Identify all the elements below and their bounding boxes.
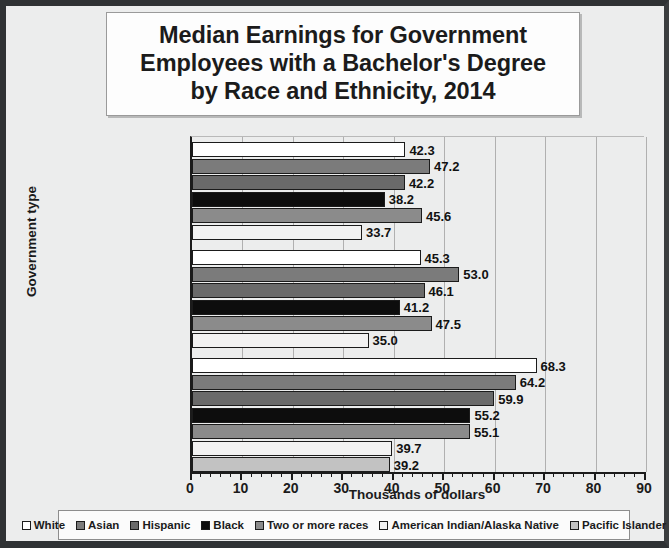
legend-item[interactable]: Pacific Islander — [570, 519, 666, 531]
x-tick-minor — [533, 472, 534, 477]
bar-row: 42.2 — [192, 175, 646, 190]
bar[interactable] — [192, 316, 432, 331]
legend-label: American Indian/Alaska Native — [391, 519, 558, 531]
legend-swatch-icon — [130, 521, 139, 530]
legend-label: Pacific Islander — [582, 519, 666, 531]
x-tick-minor — [251, 472, 252, 477]
x-tick-minor — [271, 472, 272, 477]
x-tick-minor — [281, 472, 282, 477]
x-tick-minor — [382, 472, 383, 477]
x-tick-label: 0 — [168, 480, 212, 496]
x-tick-minor — [513, 472, 514, 477]
x-tick-major — [341, 472, 343, 480]
bar-value-label: 45.6 — [422, 208, 451, 223]
x-tick-minor — [321, 472, 322, 477]
plot-area: 42.347.242.238.245.633.745.353.046.141.2… — [190, 136, 644, 472]
x-tick-minor — [432, 472, 433, 477]
bar-value-label: 41.2 — [400, 300, 429, 315]
legend-swatch-icon — [22, 521, 31, 530]
x-tick-minor — [200, 472, 201, 477]
bar-row: 68.3 — [192, 358, 646, 373]
bar[interactable] — [192, 250, 421, 265]
x-tick-major — [190, 472, 192, 480]
x-tick-major — [493, 472, 495, 480]
bar[interactable] — [192, 175, 405, 190]
bar-row: 53.0 — [192, 267, 646, 282]
x-tick-minor — [261, 472, 262, 477]
legend-label: White — [34, 519, 65, 531]
bar[interactable] — [192, 159, 430, 174]
bar[interactable] — [192, 300, 400, 315]
bar[interactable] — [192, 441, 392, 456]
bar[interactable] — [192, 333, 369, 348]
bar[interactable] — [192, 225, 362, 240]
bar[interactable] — [192, 208, 422, 223]
x-tick-minor — [362, 472, 363, 477]
x-tick-minor — [311, 472, 312, 477]
bar-row: 33.7 — [192, 225, 646, 240]
x-tick-minor — [624, 472, 625, 477]
x-tick-minor — [503, 472, 504, 477]
legend-label: Two or more races — [267, 519, 368, 531]
bar[interactable] — [192, 142, 405, 157]
x-tick-minor — [402, 472, 403, 477]
x-tick-major — [442, 472, 444, 480]
bar-value-label: 55.1 — [470, 424, 499, 439]
bar-value-label: 42.2 — [405, 175, 434, 190]
chart-title-box: Median Earnings for GovernmentEmployees … — [106, 12, 580, 116]
chart-title-line: Employees with a Bachelor's Degree — [140, 50, 546, 76]
legend-item[interactable]: Black — [201, 519, 244, 531]
bar[interactable] — [192, 192, 385, 207]
x-tick-minor — [472, 472, 473, 477]
bar-value-label: 38.2 — [385, 192, 414, 207]
chart-legend: WhiteAsianHispanicBlackTwo or more races… — [58, 510, 630, 540]
bar-value-label: 33.7 — [362, 225, 391, 240]
bar[interactable] — [192, 283, 425, 298]
bar-group: 45.353.046.141.247.535.0 — [192, 250, 646, 349]
x-tick-minor — [230, 472, 231, 477]
bar-row: 39.7 — [192, 441, 646, 456]
x-tick-major — [594, 472, 596, 480]
x-tick-minor — [523, 472, 524, 477]
x-tick-minor — [301, 472, 302, 477]
bar[interactable] — [192, 267, 459, 282]
x-tick-minor — [634, 472, 635, 477]
legend-item[interactable]: Asian — [76, 519, 119, 531]
bar-row: 55.1 — [192, 424, 646, 439]
legend-item[interactable]: White — [22, 519, 65, 531]
bar-row: 47.5 — [192, 316, 646, 331]
bar[interactable] — [192, 408, 470, 423]
bar[interactable] — [192, 424, 470, 439]
x-tick-label: 30 — [319, 480, 363, 496]
x-tick-minor — [351, 472, 352, 477]
x-tick-minor — [422, 472, 423, 477]
bar-value-label: 46.1 — [425, 283, 454, 298]
x-tick-minor — [331, 472, 332, 477]
x-tick-major — [543, 472, 545, 480]
legend-item[interactable]: Two or more races — [255, 519, 368, 531]
bar-row: 47.2 — [192, 159, 646, 174]
bar-value-label: 68.3 — [537, 358, 566, 373]
x-tick-minor — [462, 472, 463, 477]
x-tick-label: 80 — [572, 480, 616, 496]
bar-row: 35.0 — [192, 333, 646, 348]
bar[interactable] — [192, 391, 494, 406]
bar-value-label: 35.0 — [369, 333, 398, 348]
x-tick-label: 90 — [622, 480, 666, 496]
bar[interactable] — [192, 457, 390, 472]
bar[interactable] — [192, 358, 537, 373]
legend-swatch-icon — [201, 521, 210, 530]
bar-group: 68.364.259.955.255.139.739.2 — [192, 358, 646, 474]
bar[interactable] — [192, 375, 516, 390]
legend-item[interactable]: Hispanic — [130, 519, 190, 531]
x-tick-minor — [483, 472, 484, 477]
bar-value-label: 42.3 — [405, 142, 434, 157]
legend-item[interactable]: American Indian/Alaska Native — [379, 519, 558, 531]
x-tick-minor — [220, 472, 221, 477]
x-tick-minor — [412, 472, 413, 477]
x-tick-major — [240, 472, 242, 480]
x-tick-minor — [210, 472, 211, 477]
x-tick-minor — [452, 472, 453, 477]
bar-row: 59.9 — [192, 391, 646, 406]
chart-canvas: Median Earnings for GovernmentEmployees … — [6, 6, 669, 548]
